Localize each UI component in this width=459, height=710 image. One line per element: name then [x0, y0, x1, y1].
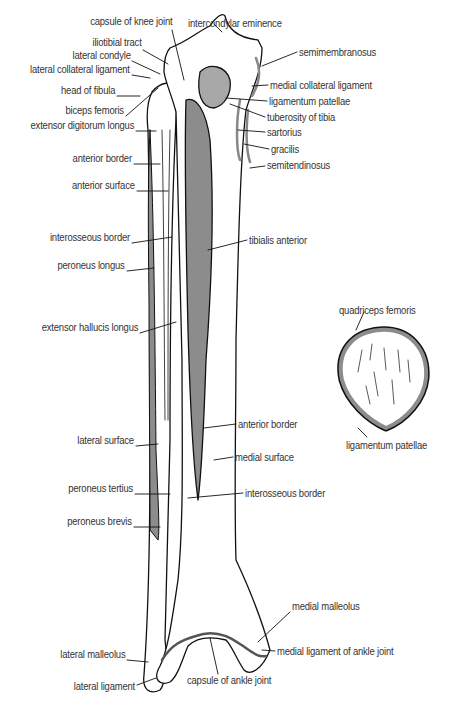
label-medial-collateral-ligament: medial collateral ligament	[270, 79, 372, 91]
label-interosseous-border-fibula: interosseous border	[50, 231, 130, 243]
label-anterior-border-tibia: anterior border	[238, 418, 297, 430]
label-lateral-malleolus: lateral malleolus	[60, 648, 125, 660]
label-semimembranosus: semimembranosus	[299, 46, 376, 58]
label-iliotibial-tract: iliotibial tract	[93, 36, 142, 48]
label-interosseous-border-tibia: interosseous border	[245, 487, 325, 499]
label-medial-surface: medial surface	[235, 451, 294, 463]
label-anterior-surface: anterior surface	[72, 179, 135, 191]
label-quadriceps-femoris: quadriceps femoris	[339, 304, 416, 316]
label-tibialis-anterior: tibialis anterior	[249, 234, 307, 246]
fibula	[144, 83, 178, 692]
label-lateral-collateral-ligament: lateral collateral ligament	[30, 63, 130, 75]
label-extensor-hallucis-longus: extensor hallucis longus	[41, 321, 138, 333]
label-extensor-digitorum-longus: extensor digitorum longus	[30, 119, 134, 131]
label-anterior-border-fibula: anterior border	[73, 152, 132, 164]
label-sartorius: sartorius	[267, 126, 302, 138]
label-lateral-condyle: lateral condyle	[73, 49, 131, 61]
patella-cross-section	[341, 330, 426, 428]
label-capsule-of-ankle-joint: capsule of ankle joint	[187, 674, 271, 686]
label-peroneus-tertius: peroneus tertius	[68, 482, 133, 494]
label-ligamentum-patellae-patella: ligamentum patellae	[346, 439, 427, 451]
label-lateral-surface: lateral surface	[77, 434, 134, 446]
label-head-of-fibula: head of fibula	[61, 84, 115, 96]
label-medial-malleolus: medial malleolus	[292, 600, 360, 612]
label-tuberosity-of-tibia: tuberosity of tibia	[267, 111, 335, 123]
label-medial-ligament-of-ankle-joint: medial ligament of ankle joint	[277, 645, 393, 657]
label-ligamentum-patellae-tibia: ligamentum patellae	[269, 95, 350, 107]
label-semitendinosus: semitendinosus	[267, 159, 330, 171]
label-peroneus-brevis: peroneus brevis	[67, 515, 132, 527]
label-gracilis: gracilis	[271, 143, 299, 155]
label-lateral-ligament: lateral ligament	[74, 680, 135, 692]
label-intercondylar-eminence: intercondylar eminence	[188, 17, 282, 29]
label-biceps-femoris: biceps femoris	[66, 104, 124, 116]
label-peroneus-longus: peroneus longus	[58, 259, 125, 271]
label-capsule-of-knee-joint: capsule of knee joint	[91, 15, 173, 27]
